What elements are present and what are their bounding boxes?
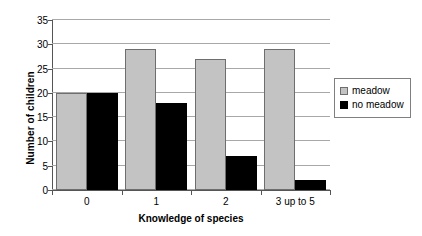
y-tick-label: 30 — [22, 39, 48, 50]
plot-area — [52, 20, 330, 190]
bar — [226, 156, 257, 190]
x-tick-mark — [330, 191, 331, 195]
x-tick-mark — [191, 191, 192, 195]
bar — [125, 49, 156, 190]
bar — [87, 93, 118, 190]
x-tick-label: 0 — [84, 196, 90, 207]
y-tick-label: 0 — [22, 185, 48, 196]
bar — [156, 103, 187, 190]
y-tick-label: 10 — [22, 136, 48, 147]
x-tick-label: 1 — [153, 196, 159, 207]
y-tick-label: 25 — [22, 63, 48, 74]
x-tick-label: 2 — [223, 196, 229, 207]
x-axis-title: Knowledge of species — [52, 213, 330, 224]
legend-item: no meadow — [340, 98, 404, 112]
legend-item: meadow — [340, 84, 404, 98]
x-tick-mark — [122, 191, 123, 195]
legend-label: meadow — [352, 86, 390, 96]
x-tick-mark — [52, 191, 53, 195]
y-axis-tick-labels: 05101520253035 — [22, 20, 48, 190]
y-tick-label: 15 — [22, 112, 48, 123]
x-axis-tick-labels: 0123 up to 5 — [52, 196, 330, 212]
bar — [56, 93, 87, 190]
bar-chart-figure: Number of children 05101520253035 0123 u… — [0, 0, 422, 236]
bar — [195, 59, 226, 190]
legend-label: no meadow — [352, 100, 404, 110]
x-tick-mark — [261, 191, 262, 195]
bar — [264, 49, 295, 190]
chart-legend: meadowno meadow — [334, 78, 411, 118]
bars-layer — [52, 20, 330, 190]
legend-swatch-icon — [340, 87, 348, 95]
legend-swatch-icon — [340, 101, 348, 109]
bar — [295, 180, 326, 190]
x-tick-label: 3 up to 5 — [276, 196, 315, 207]
y-tick-label: 20 — [22, 87, 48, 98]
y-tick-label: 35 — [22, 15, 48, 26]
y-tick-label: 5 — [22, 160, 48, 171]
